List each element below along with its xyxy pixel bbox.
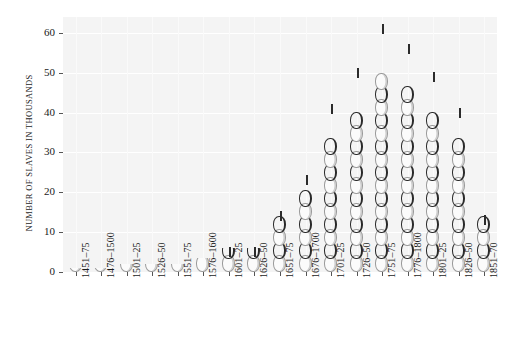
vertical-gridline — [203, 17, 204, 272]
y-tick-label: 10 — [29, 226, 55, 237]
x-tick-mark — [76, 272, 77, 276]
chain-link — [401, 86, 414, 103]
chain-link — [375, 73, 388, 90]
x-tick-label: 1651–75 — [284, 242, 295, 278]
chain-top-stub — [280, 211, 282, 221]
x-tick-mark — [127, 272, 128, 276]
x-tick-label: 1476–1500 — [105, 232, 116, 278]
x-tick-mark — [280, 272, 281, 276]
x-tick-label: 1801–25 — [437, 242, 448, 278]
x-tick-label: 1826–50 — [463, 242, 474, 278]
x-tick-mark — [433, 272, 434, 276]
y-tick-label: 0 — [29, 266, 55, 277]
x-tick-mark — [459, 272, 460, 276]
y-tick-label: 30 — [29, 146, 55, 157]
x-tick-mark — [178, 272, 179, 276]
x-tick-mark — [101, 272, 102, 276]
x-tick-label: 1626–50 — [258, 242, 269, 278]
vertical-gridline — [254, 17, 255, 272]
vertical-gridline — [127, 17, 128, 272]
plot-area — [63, 17, 497, 272]
x-tick-mark — [331, 272, 332, 276]
x-tick-label: 1676–1700 — [310, 232, 321, 278]
chain-top-stub — [408, 44, 410, 54]
y-tick-label: 20 — [29, 186, 55, 197]
x-tick-label: 1451–75 — [80, 242, 91, 278]
vertical-gridline — [101, 17, 102, 272]
x-tick-label: 1701–25 — [335, 242, 346, 278]
x-tick-mark — [357, 272, 358, 276]
x-tick-mark — [254, 272, 255, 276]
chain-top-stub — [254, 247, 256, 257]
vertical-gridline — [152, 17, 153, 272]
y-tick-label: 60 — [29, 27, 55, 38]
vertical-gridline — [76, 17, 77, 272]
chain-link — [452, 138, 465, 155]
x-tick-label: 1576–1600 — [207, 232, 218, 278]
x-tick-mark — [152, 272, 153, 276]
chain-top-stub — [459, 108, 461, 118]
x-tick-mark — [306, 272, 307, 276]
x-tick-label: 1501–25 — [131, 242, 142, 278]
x-tick-mark — [408, 272, 409, 276]
x-tick-label: 1526–50 — [156, 242, 167, 278]
x-tick-label: 1601–25 — [233, 242, 244, 278]
x-tick-label: 1851–70 — [488, 242, 499, 278]
y-tick-label: 40 — [29, 107, 55, 118]
x-tick-label: 1726–50 — [361, 242, 372, 278]
chain-top-stub — [382, 24, 384, 34]
chain-top-stub — [229, 247, 231, 257]
chain-top-stub — [357, 68, 359, 78]
chart-figure: NUMBER OF SLAVES IN THOUSANDS 0102030405… — [0, 0, 513, 354]
y-tick-label: 50 — [29, 67, 55, 78]
chain-top-stub — [306, 175, 308, 185]
chain-link — [350, 112, 363, 129]
bar — [373, 25, 391, 272]
vertical-gridline — [178, 17, 179, 272]
chain-top-stub — [331, 104, 333, 114]
chain-link — [299, 190, 312, 207]
chain-link — [324, 138, 337, 155]
chain-top-stub — [484, 215, 486, 225]
x-tick-label: 1776–1800 — [412, 232, 423, 278]
x-tick-label: 1551–75 — [182, 242, 193, 278]
chain-link — [426, 112, 439, 129]
chain-top-stub — [433, 72, 435, 82]
vertical-gridline — [229, 17, 230, 272]
x-tick-mark — [484, 272, 485, 276]
chain-links — [373, 25, 391, 272]
x-tick-mark — [203, 272, 204, 276]
x-tick-mark — [382, 272, 383, 276]
x-tick-mark — [229, 272, 230, 276]
x-tick-label: 1751–75 — [386, 242, 397, 278]
